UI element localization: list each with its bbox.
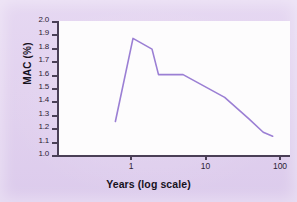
x-axis-title: Years (log scale) bbox=[0, 178, 297, 190]
y-tick-mark bbox=[52, 115, 57, 117]
y-tick-mark bbox=[52, 155, 57, 157]
line-chart-svg bbox=[59, 21, 290, 155]
y-tick-label: 1.1 bbox=[38, 136, 49, 145]
data-series-line bbox=[115, 38, 272, 136]
y-tick-label: 1.0 bbox=[38, 149, 49, 158]
y-tick-label: 1.3 bbox=[38, 109, 49, 118]
y-tick-mark bbox=[52, 61, 57, 63]
y-tick-mark bbox=[52, 75, 57, 77]
y-tick: 1.4 bbox=[0, 101, 57, 102]
y-tick-mark bbox=[52, 21, 57, 23]
y-tick: 1.1 bbox=[0, 142, 57, 143]
y-tick-label: 1.4 bbox=[38, 95, 49, 104]
x-tick-label: 1 bbox=[129, 161, 134, 171]
y-tick: 1.2 bbox=[0, 128, 57, 129]
y-axis-title: MAC (%) bbox=[22, 29, 33, 99]
chart-figure: 1.01.11.21.31.41.51.61.71.81.92.0 110100… bbox=[0, 0, 297, 202]
y-tick-mark bbox=[52, 48, 57, 50]
plot-area bbox=[57, 21, 290, 157]
y-tick-label: 1.8 bbox=[38, 42, 49, 51]
y-tick-label: 2.0 bbox=[38, 15, 49, 24]
y-tick-mark bbox=[52, 101, 57, 103]
x-tick-mark bbox=[205, 155, 207, 160]
x-tick-mark bbox=[130, 155, 132, 160]
y-tick-label: 1.6 bbox=[38, 69, 49, 78]
y-tick-label: 1.5 bbox=[38, 82, 49, 91]
y-tick-mark bbox=[52, 142, 57, 144]
y-tick-mark bbox=[52, 34, 57, 36]
y-tick-mark bbox=[52, 128, 57, 130]
y-tick: 1.3 bbox=[0, 115, 57, 116]
y-tick-label: 1.2 bbox=[38, 122, 49, 131]
y-tick-mark bbox=[52, 88, 57, 90]
y-tick-label: 1.7 bbox=[38, 55, 49, 64]
x-tick-mark bbox=[279, 155, 281, 160]
y-tick-label: 1.9 bbox=[38, 28, 49, 37]
x-tick-label: 100 bbox=[273, 161, 287, 171]
y-tick: 1.0 bbox=[0, 155, 57, 156]
x-tick-label: 10 bbox=[201, 161, 210, 171]
y-tick: 2.0 bbox=[0, 21, 57, 22]
